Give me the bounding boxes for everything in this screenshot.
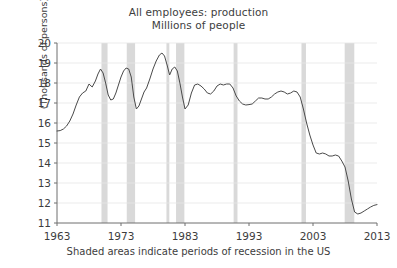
- recession-bands-group: [101, 43, 354, 223]
- y-tick-label: 14: [29, 158, 51, 168]
- y-tick-label: 12: [29, 198, 51, 208]
- chart-caption: Shaded areas indicate periods of recessi…: [0, 246, 397, 257]
- x-tick-label: 2013: [355, 230, 397, 242]
- chart-figure: All employees: production Millions of pe…: [0, 0, 397, 268]
- x-tick-label: 1973: [99, 230, 143, 242]
- x-tick-label: 1993: [227, 230, 271, 242]
- recession-band: [234, 43, 238, 223]
- x-tick-label: 1983: [163, 230, 207, 242]
- y-tick-label: 18: [29, 78, 51, 88]
- recession-band: [127, 43, 135, 223]
- chart-title: All employees: production: [0, 6, 397, 19]
- x-tick-label: 1963: [35, 230, 79, 242]
- chart-subtitle: Millions of people: [0, 19, 397, 32]
- recession-band: [101, 43, 107, 223]
- y-tick-label: 11: [29, 218, 51, 228]
- y-tick-label: 17: [29, 98, 51, 108]
- y-tick-label: 20: [29, 38, 51, 48]
- y-tick-label: 15: [29, 138, 51, 148]
- recession-band: [176, 43, 184, 223]
- recession-band: [301, 43, 305, 223]
- y-tick-label: 19: [29, 58, 51, 68]
- y-tick-label: 13: [29, 178, 51, 188]
- chart-title-block: All employees: production Millions of pe…: [0, 6, 397, 32]
- chart-plot-svg: [0, 0, 397, 268]
- y-tick-label: 16: [29, 118, 51, 128]
- x-tick-label: 2003: [291, 230, 335, 242]
- recession-band: [345, 43, 355, 223]
